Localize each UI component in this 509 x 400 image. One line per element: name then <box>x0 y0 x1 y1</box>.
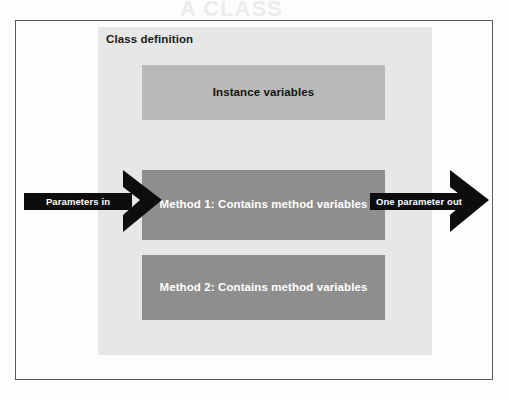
arrow-right-icon <box>122 169 162 233</box>
parameters-in-arrow-bar: Parameters in <box>24 193 132 210</box>
method-1-label: Method 1: Contains method variables <box>160 199 368 211</box>
instance-variables-label: Instance variables <box>213 87 315 99</box>
arrow-right-icon <box>449 169 489 233</box>
page-bleed-text-top: A CLASS <box>180 0 283 22</box>
instance-variables-box: Instance variables <box>142 65 385 120</box>
method-2-label: Method 2: Contains method variables <box>160 282 368 294</box>
parameters-in-label: Parameters in <box>46 197 110 207</box>
scanned-page-background: A CLASS OO Class definition Instance var… <box>0 0 509 400</box>
class-definition-title: Class definition <box>106 33 193 45</box>
method-1-box: Method 1: Contains method variables <box>142 170 385 240</box>
method-2-box: Method 2: Contains method variables <box>142 255 385 320</box>
